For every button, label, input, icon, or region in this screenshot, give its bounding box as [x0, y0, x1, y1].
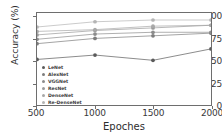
x-axis-label: Epoches — [36, 121, 212, 132]
x-tick-mark — [212, 106, 213, 109]
data-point — [37, 58, 39, 62]
legend-item[interactable]: ResNet — [41, 85, 82, 92]
data-point — [151, 24, 155, 28]
series-line — [37, 49, 211, 60]
series-line — [37, 32, 211, 39]
x-tick-mark — [36, 106, 37, 109]
data-point — [93, 53, 97, 57]
data-point — [37, 37, 39, 41]
legend-item[interactable]: DenseNet — [41, 92, 82, 99]
data-point — [151, 34, 155, 38]
data-point — [151, 30, 155, 34]
data-point — [151, 18, 155, 22]
x-tick-mark — [95, 106, 96, 109]
legend-item-label: AlexNet — [48, 72, 68, 77]
data-point — [37, 25, 39, 29]
legend-item-label: Re-DenseNet — [48, 100, 82, 105]
legend-marker-icon — [42, 73, 45, 76]
data-point — [93, 32, 97, 36]
data-point — [37, 30, 39, 34]
x-tick-label: 500 — [16, 108, 56, 118]
x-tick-label: 1500 — [133, 108, 173, 118]
legend-item[interactable]: LeNet — [41, 64, 82, 71]
legend-item-label: LeNet — [48, 65, 63, 70]
legend: LeNetAlexNetVGGNetResNetDenseNetRe-Dense… — [41, 64, 82, 106]
legend-item[interactable]: AlexNet — [41, 71, 82, 78]
data-point — [37, 42, 39, 46]
legend-item[interactable]: Re-DenseNet — [41, 99, 82, 106]
data-point — [209, 18, 211, 22]
legend-marker-icon — [42, 87, 45, 90]
legend-marker-icon — [42, 101, 45, 104]
data-point — [209, 47, 211, 51]
legend-marker-icon — [42, 66, 45, 69]
data-point — [209, 23, 211, 27]
x-tick-mark — [153, 106, 154, 109]
legend-item[interactable]: VGGNet — [41, 78, 82, 85]
x-tick-label: 2000 — [192, 108, 222, 118]
data-point — [93, 37, 97, 41]
figure: Accuracy (%) 1007550250 500100015002000 … — [0, 0, 222, 140]
legend-marker-icon — [42, 80, 45, 83]
y-axis-label: Accuracy (%) — [10, 0, 20, 77]
data-point — [37, 33, 39, 37]
legend-item-label: ResNet — [48, 86, 67, 91]
legend-marker-icon — [42, 94, 45, 97]
data-point — [151, 58, 155, 62]
legend-item-label: VGGNet — [48, 79, 68, 84]
legend-item-label: DenseNet — [48, 93, 73, 98]
data-point — [93, 20, 97, 24]
x-tick-label: 1000 — [75, 108, 115, 118]
data-point — [93, 28, 97, 32]
series-line — [37, 33, 211, 44]
